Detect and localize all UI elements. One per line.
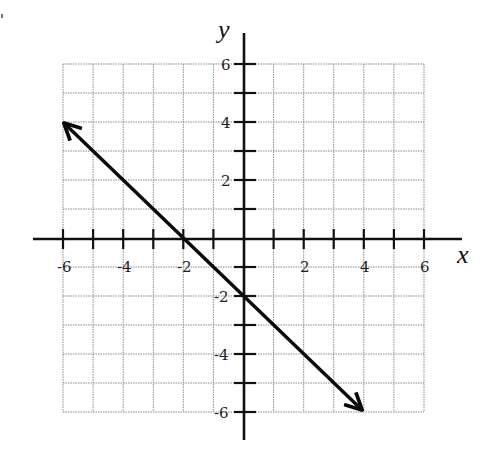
x-tick-label: -4 xyxy=(117,258,132,276)
y-axis-label: y xyxy=(215,15,230,44)
y-tick-label: -2 xyxy=(214,288,229,306)
y-tick-label: 4 xyxy=(221,114,231,132)
scan-artifact xyxy=(1,14,3,18)
y-tick-label: -4 xyxy=(214,346,229,364)
coordinate-plane: -6 -4 -2 2 4 6 6 4 2 -2 -4 -6 x y xyxy=(0,0,494,451)
x-tick-label: 6 xyxy=(420,258,430,276)
x-tick-label: -6 xyxy=(57,258,72,276)
y-tick-label: -6 xyxy=(214,404,229,422)
y-tick-label: 6 xyxy=(221,56,231,74)
y-tick-label: 2 xyxy=(221,172,231,190)
x-tick-label: -2 xyxy=(177,258,192,276)
x-tick-label: 4 xyxy=(360,258,370,276)
x-axis-label: x xyxy=(456,240,469,269)
x-tick-label: 2 xyxy=(300,258,310,276)
